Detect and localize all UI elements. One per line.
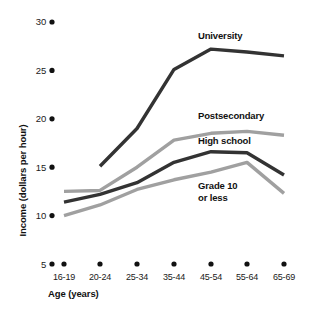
series-label-grade10-line2: or less <box>198 192 228 203</box>
y-tick-label-30: 30 <box>24 16 46 27</box>
y-axis-tick-dots <box>49 19 54 266</box>
x-tick-label-55-64: 55-64 <box>230 272 264 282</box>
x-tick-dot-65-69 <box>281 261 286 266</box>
chart-plot-area <box>0 0 312 316</box>
x-tick-label-20-24: 20-24 <box>83 272 117 282</box>
x-tick-dot-16-19 <box>61 261 66 266</box>
series-lines <box>64 49 284 216</box>
y-tick-label-25: 25 <box>24 65 46 76</box>
series-label-postsecondary: Postsecondary <box>198 110 264 122</box>
x-axis-tick-dots <box>61 261 286 266</box>
y-tick-dot-5 <box>49 261 54 266</box>
x-tick-dot-25-34 <box>134 261 139 266</box>
y-axis-title: Income (dollars per hour) <box>17 111 28 251</box>
income-by-education-chart: 30 25 20 15 10 5 16-19 20-24 25-34 35-44… <box>0 0 312 316</box>
x-tick-label-45-54: 45-54 <box>194 272 228 282</box>
series-line-high-school <box>64 152 284 202</box>
x-tick-label-65-69: 65-69 <box>267 272 301 282</box>
y-tick-dot-20 <box>49 116 54 121</box>
x-tick-dot-55-64 <box>244 261 249 266</box>
x-tick-dot-20-24 <box>97 261 102 266</box>
y-tick-dot-15 <box>49 165 54 170</box>
series-label-university: University <box>198 30 242 42</box>
series-line-university <box>100 49 284 166</box>
x-tick-label-35-44: 35-44 <box>157 272 191 282</box>
series-label-grade10-line1: Grade 10 <box>198 180 237 191</box>
y-tick-dot-30 <box>49 19 54 24</box>
x-axis-title: Age (years) <box>48 288 99 299</box>
series-label-grade10-or-less: Grade 10or less <box>198 180 237 203</box>
x-tick-dot-45-54 <box>208 261 213 266</box>
x-tick-label-25-34: 25-34 <box>120 272 154 282</box>
x-tick-label-16-19: 16-19 <box>47 272 81 282</box>
y-tick-dot-25 <box>49 68 54 73</box>
series-label-high-school: High school <box>198 135 251 147</box>
x-tick-dot-35-44 <box>171 261 176 266</box>
y-tick-dot-10 <box>49 213 54 218</box>
y-tick-label-5: 5 <box>24 259 46 270</box>
